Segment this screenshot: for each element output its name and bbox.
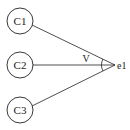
angle-label: V [82, 53, 90, 64]
node-c1-label: C1 [14, 15, 27, 27]
edge-c1-e1 [32, 25, 115, 65]
target-label: e1 [117, 60, 126, 71]
diagram-canvas: C1 C2 C3 V e1 [0, 0, 130, 130]
node-c3: C3 [7, 97, 33, 123]
node-c3-label: C3 [14, 104, 27, 116]
node-c2-label: C2 [14, 59, 27, 71]
edge-c3-e1 [32, 65, 115, 106]
node-c1: C1 [7, 8, 33, 34]
node-c2: C2 [7, 52, 33, 78]
